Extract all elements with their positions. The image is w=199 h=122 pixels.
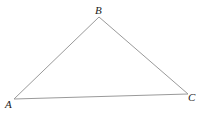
vertex-label-a: A [4,98,12,110]
triangle-diagram: B A C [0,0,199,122]
vertex-label-c: C [188,91,196,103]
edge-ac [14,94,188,99]
vertex-label-b: B [95,4,102,16]
edge-ab [14,17,99,99]
edge-bc [99,17,188,94]
